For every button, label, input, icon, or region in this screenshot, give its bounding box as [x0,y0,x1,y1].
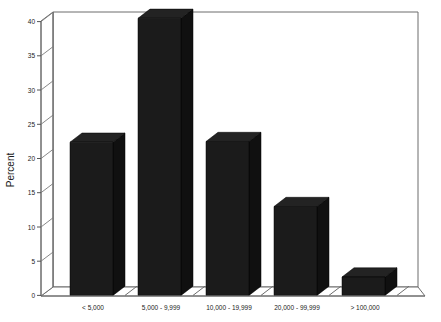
bar-chart: 40 35 30 25 20 15 10 5 0 Percent [0,0,441,322]
bar-group-0 [70,133,125,295]
x-tick-label-2: 10,000 - 19,999 [206,304,252,311]
bar-side-2 [249,132,261,295]
bar-side-3 [317,197,329,295]
x-tick-label-3: 20,000 - 99,999 [274,304,320,311]
bar-front-1 [138,18,181,295]
x-tick-label-1: 5,000 - 9,999 [142,304,181,311]
bar-group-1 [138,9,193,295]
bar-group-2 [206,132,261,295]
x-tick-label-0: < 5,000 [82,304,104,311]
bar-group-3 [274,197,329,295]
y-tick-label-20: 20 [28,155,36,162]
x-tick-label-4: > 100,000 [350,304,379,311]
y-tick-label-5: 5 [31,258,35,265]
chart-canvas: 40 35 30 25 20 15 10 5 0 Percent [0,0,441,322]
y-tick-label-15: 15 [28,189,36,196]
bar-group-4 [342,268,397,296]
bar-front-2 [206,142,249,296]
y-axis-title: Percent [5,153,16,188]
y-tick-label-0: 0 [31,292,35,299]
bar-front-4 [342,277,385,295]
bar-front-3 [274,207,317,296]
bar-side-0 [113,133,125,295]
y-tick-label-10: 10 [28,224,36,231]
bar-front-0 [70,142,113,295]
bar-side-1 [181,9,193,295]
y-tick-label-40: 40 [28,18,36,25]
y-tick-label-35: 35 [28,52,36,59]
y-tick-label-25: 25 [28,121,36,128]
y-tick-label-30: 30 [28,87,36,94]
